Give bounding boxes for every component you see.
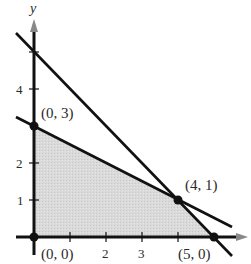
x-tick-label-3: 3: [138, 246, 145, 261]
y-axis-label: y: [28, 1, 37, 16]
y-tick-label-1: 1: [17, 193, 24, 208]
vertex-4-1: [174, 196, 183, 205]
chart-container: y 2 3 1 2 4 (0, 3) (4, 1) (0, 0): [0, 0, 251, 264]
vertex-label-0-3: (0, 3): [41, 105, 74, 122]
vertex-label-0-0: (0, 0): [41, 246, 74, 263]
vertex-label-5-0: (5, 0): [178, 246, 211, 263]
vertex-label-4-1: (4, 1): [185, 177, 218, 194]
x-tick-label-2: 2: [102, 246, 109, 261]
y-axis-arrow-icon: [30, 19, 38, 32]
y-tick-label-4: 4: [16, 82, 23, 97]
linear-programming-graph: y 2 3 1 2 4 (0, 3) (4, 1) (0, 0): [0, 0, 251, 264]
y-tick-label-2: 2: [16, 156, 23, 171]
vertex-0-3: [30, 122, 39, 131]
x-axis-arrow-icon: [236, 233, 248, 241]
vertex-5-0: [210, 233, 219, 242]
vertex-0-0: [30, 233, 39, 242]
